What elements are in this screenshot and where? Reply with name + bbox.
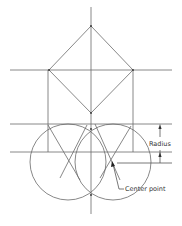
- apex-point: [90, 25, 92, 27]
- diagram-canvas: Radius Center point: [0, 0, 182, 226]
- circle-bottom-intersection: [90, 194, 92, 196]
- construction-diagram: Radius Center point: [0, 0, 182, 226]
- radius-label: Radius: [149, 140, 171, 148]
- center-point-label: Center point: [125, 185, 166, 193]
- cross-line-left-b: [60, 125, 87, 178]
- bottom-vertex-point: [90, 112, 92, 114]
- cross-line-left-a: [48, 125, 80, 180]
- right-vertex-point: [132, 69, 134, 71]
- left-vertex-point: [48, 69, 50, 71]
- arrow-up-icon: [158, 124, 161, 129]
- arrow-up-lower-icon: [158, 152, 161, 157]
- circle-top-intersection: [90, 128, 92, 130]
